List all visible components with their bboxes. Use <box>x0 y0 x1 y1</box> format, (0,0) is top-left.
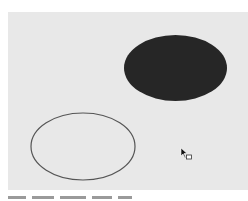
outline-ellipse[interactable] <box>31 113 135 180</box>
drag-copy-cursor-icon <box>180 147 194 161</box>
filled-ellipse[interactable] <box>124 35 227 101</box>
cut-off-caption <box>8 196 168 201</box>
shapes-layer <box>0 0 248 201</box>
